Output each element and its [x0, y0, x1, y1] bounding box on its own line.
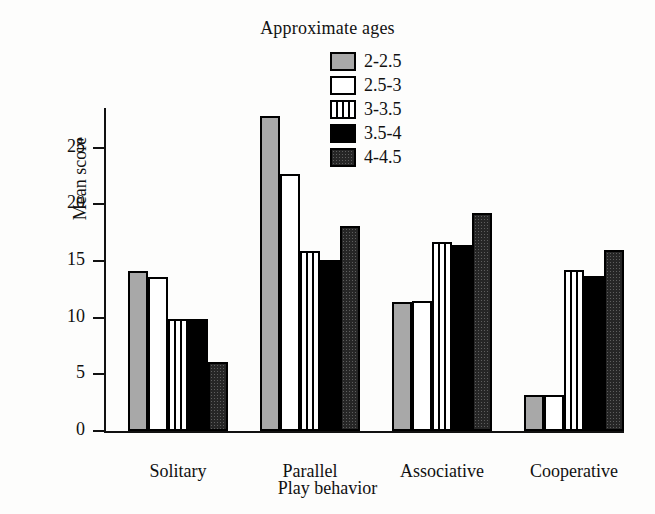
bar-group-cooperative: Cooperative	[524, 108, 624, 431]
y-tick: 0	[93, 430, 106, 432]
bar[interactable]	[544, 395, 564, 431]
legend-swatch-icon	[330, 76, 356, 95]
legend-item-2.5-3[interactable]: 2.5-3	[330, 74, 402, 96]
y-tick-label: 15	[67, 249, 85, 269]
bar[interactable]	[432, 242, 452, 431]
y-tick: 5	[93, 373, 106, 375]
bar[interactable]	[128, 271, 148, 431]
x-tick-label-wrap: Associative	[392, 447, 492, 471]
x-tick-label-wrap: Cooperative	[524, 447, 624, 471]
bar[interactable]	[188, 319, 208, 431]
x-tick-label-wrap: Solitary	[128, 447, 228, 471]
bar[interactable]	[452, 245, 472, 431]
bar[interactable]	[260, 116, 280, 431]
legend-item-label: 2.5-3	[364, 76, 402, 95]
legend-title: Approximate ages	[0, 18, 655, 39]
y-tick-label: 10	[67, 306, 85, 326]
bar[interactable]	[280, 174, 300, 431]
chart-page: Approximate ages 2-2.52.5-33-3.53.5-44-4…	[0, 0, 655, 514]
x-axis-label: Play behavior	[0, 478, 655, 499]
x-tick-label-wrap: Parallel	[260, 447, 360, 471]
bar[interactable]	[472, 213, 492, 431]
bar-group-solitary: Solitary	[128, 108, 228, 431]
bar-group-parallel: Parallel	[260, 108, 360, 431]
y-tick-label: 20	[67, 192, 85, 212]
bar[interactable]	[604, 250, 624, 431]
legend-item-label: 2-2.5	[364, 52, 402, 71]
bar[interactable]	[300, 251, 320, 431]
y-axis-line	[104, 108, 106, 433]
y-tick: 20	[93, 203, 106, 205]
y-tick: 15	[93, 260, 106, 262]
y-tick-label: 0	[76, 419, 85, 439]
legend-item-2-2.5[interactable]: 2-2.5	[330, 50, 402, 72]
bar[interactable]	[340, 226, 360, 431]
bar-group-associative: Associative	[392, 108, 492, 431]
bar[interactable]	[412, 301, 432, 431]
bar[interactable]	[392, 302, 412, 431]
bar[interactable]	[208, 362, 228, 431]
y-axis-label: Mean score	[70, 109, 91, 249]
y-tick-label: 5	[76, 362, 85, 382]
bar[interactable]	[524, 395, 544, 431]
bar[interactable]	[564, 270, 584, 431]
plot-area: 0510152025 SolitaryParallelAssociativeCo…	[104, 108, 624, 433]
bar[interactable]	[320, 260, 340, 431]
y-tick: 10	[93, 317, 106, 319]
y-tick: 25	[93, 147, 106, 149]
x-axis-line	[104, 431, 624, 433]
y-tick-label: 25	[67, 136, 85, 156]
bar[interactable]	[584, 276, 604, 431]
bar[interactable]	[168, 319, 188, 431]
legend-swatch-icon	[330, 52, 356, 71]
bar[interactable]	[148, 277, 168, 431]
